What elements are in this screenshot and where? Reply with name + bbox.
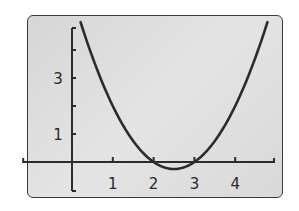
x-tick-label: 2 — [149, 175, 159, 193]
y-tick-label: 1 — [53, 126, 63, 144]
plot-area: 123413 — [0, 0, 299, 211]
parabola-curve — [81, 22, 268, 169]
x-tick-label: 3 — [190, 175, 200, 193]
y-tick-label: 3 — [53, 70, 63, 88]
x-tick-label: 1 — [108, 175, 118, 193]
x-tick-label: 4 — [230, 175, 240, 193]
